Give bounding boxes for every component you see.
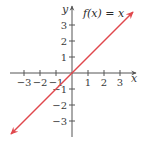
y-tick-label: −2: [52, 100, 67, 111]
x-tick-label: 2: [101, 77, 107, 88]
y-tick-label: 3: [61, 20, 67, 31]
x-tick-label: 1: [85, 77, 91, 88]
x-axis-label: x: [131, 72, 138, 85]
y-axis-label: y: [61, 3, 69, 16]
y-tick-label: 2: [61, 36, 67, 47]
x-tick-label: 3: [117, 77, 123, 88]
function-graph: −3 −2 −1 1 2 3 3 2 1 −1 −2 −3 x y f(x) =…: [0, 0, 146, 141]
function-label: f(x) = x: [82, 7, 125, 20]
y-tick-label: −3: [52, 116, 67, 127]
x-tick-label: −3: [17, 77, 32, 88]
x-tick-label: −2: [33, 77, 48, 88]
y-tick-label: 1: [61, 52, 67, 63]
